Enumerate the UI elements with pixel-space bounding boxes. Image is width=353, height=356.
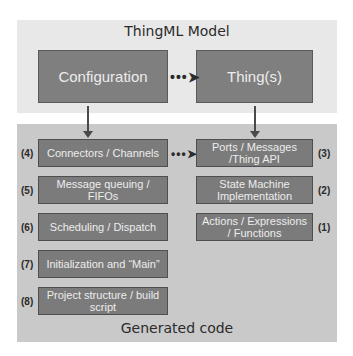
scheduling-dispatch-box: Scheduling / Dispatch [38, 213, 168, 241]
actions-expressions-box: Actions / Expressions / Functions [196, 213, 313, 241]
configuration-box: Configuration [38, 50, 168, 103]
things-box: Thing(s) [196, 50, 313, 103]
ports-messages-box: Ports / Messages /Thing API [196, 139, 313, 167]
step-number: (7) [21, 259, 33, 270]
step-number: (1) [318, 222, 330, 233]
initialization-main-box: Initialization and “Main” [38, 250, 168, 278]
project-structure-box: Project structure / build script [38, 287, 168, 315]
connectors-channels-box: Connectors / Channels [38, 139, 168, 167]
connectors-to-ports-arrow: •••➤ [171, 149, 198, 159]
config-down-arrow [87, 106, 89, 132]
step-number: (6) [21, 222, 33, 233]
step-number: (4) [21, 148, 33, 159]
generated-code-title: Generated code [17, 320, 337, 336]
step-number: (8) [21, 296, 33, 307]
thing-down-arrow [254, 106, 256, 132]
state-machine-box: State Machine Implementation [196, 176, 313, 204]
model-panel-title: ThingML Model [17, 23, 337, 39]
step-number: (2) [318, 185, 330, 196]
message-queuing-box: Message queuing / FIFOs [38, 176, 168, 204]
config-to-thing-arrow: •••➤ [170, 72, 201, 82]
step-number: (5) [21, 185, 33, 196]
step-number: (3) [318, 148, 330, 159]
